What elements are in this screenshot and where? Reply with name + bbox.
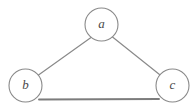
edge-group <box>39 37 160 100</box>
node-b-label: b <box>22 77 29 92</box>
edge-a-c <box>113 37 160 75</box>
graph-canvas: a b c <box>0 0 195 110</box>
node-c[interactable]: c <box>156 69 189 102</box>
node-c-label: c <box>170 77 176 92</box>
node-a-label: a <box>98 16 105 31</box>
graph-figure: a b c <box>0 0 195 110</box>
edge-a-b <box>39 38 92 76</box>
edge-b-c <box>39 99 159 100</box>
node-b[interactable]: b <box>9 69 42 102</box>
node-a[interactable]: a <box>85 8 118 41</box>
